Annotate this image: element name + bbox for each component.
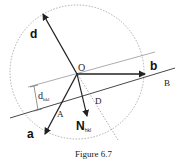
label-normal: Nhkl <box>76 119 91 133</box>
label-vector-b: b <box>150 59 157 73</box>
reciprocal-lattice-diagram: O d b a B A D dhkl Nhkl Figure 6.7 <box>0 0 181 160</box>
label-vector-d: d <box>30 27 37 41</box>
label-point-A: A <box>57 109 64 119</box>
figure-caption: Figure 6.7 <box>75 149 112 159</box>
vector-a-arrow <box>45 74 77 134</box>
label-spacing: dhkl <box>38 90 50 102</box>
vector-d-arrow <box>43 14 77 74</box>
plane-through-origin <box>28 52 155 87</box>
label-origin: O <box>78 62 85 73</box>
label-plane-B: B <box>164 78 170 88</box>
label-vector-a: a <box>27 127 34 141</box>
label-point-D: D <box>95 96 102 106</box>
